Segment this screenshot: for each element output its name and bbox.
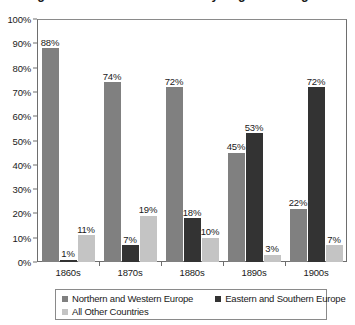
y-axis-tick-label: 10% <box>13 232 31 243</box>
bar-value-label: 7% <box>123 235 136 245</box>
bar-1860s-series-3: 11% <box>78 235 95 262</box>
bar-value-label: 7% <box>327 235 340 245</box>
legend-row-1: Northern and Western Europe Eastern and … <box>62 293 326 305</box>
legend-swatch-icon-3 <box>62 309 68 315</box>
bar-value-label: 45% <box>227 142 245 152</box>
y-axis-tick-label: 30% <box>13 184 31 195</box>
bar-value-label: 53% <box>245 123 263 133</box>
legend-swatch-icon-1 <box>62 296 68 302</box>
bar-1870s-series-1: 74% <box>104 82 121 262</box>
x-axis-tick-label: 1880s <box>180 267 205 278</box>
x-axis: 1860s1870s1880s1890s1900s <box>37 262 347 284</box>
bar-value-label: 11% <box>77 225 95 235</box>
bar-group-1860s: 88%1%11% <box>42 19 95 262</box>
bar-group-1900s: 22%72%7% <box>290 19 343 262</box>
bar-value-label: 19% <box>139 205 157 215</box>
x-axis-tick-label: 1860s <box>56 267 81 278</box>
bar-1890s-series-2: 53% <box>246 133 263 262</box>
y-axis: 100%90%80%70%60%50%40%30%20%10%0% <box>0 19 37 262</box>
page-title: Immigration to the United States by Regi… <box>8 0 320 2</box>
y-axis-tick-label: 0% <box>18 257 31 268</box>
x-axis-tick-mark <box>99 262 100 266</box>
bar-plot-area: 88%1%11%74%7%19%72%18%10%45%53%3%22%72%7… <box>37 19 347 262</box>
legend-swatch-icon-2 <box>215 296 221 302</box>
bar-1880s-series-3: 10% <box>202 238 219 262</box>
chart-legend: Northern and Western Europe Eastern and … <box>55 289 327 320</box>
y-axis-tick-label: 90% <box>13 38 31 49</box>
bar-1900s-series-3: 7% <box>326 245 343 262</box>
bar-1890s-series-3: 3% <box>264 255 281 262</box>
bar-1860s-series-1: 88% <box>42 48 59 262</box>
bar-value-label: 22% <box>289 198 307 208</box>
legend-item-eastern-and-southern-europe: Eastern and Southern Europe <box>215 294 345 304</box>
x-axis-tick-mark <box>223 262 224 266</box>
bar-1900s-series-2: 72% <box>308 87 325 262</box>
bar-value-label: 18% <box>183 208 201 218</box>
chart-title-strip: Immigration to the United States by Regi… <box>0 0 355 13</box>
bar-value-label: 1% <box>61 249 74 259</box>
y-axis-tick-label: 40% <box>13 159 31 170</box>
bar-value-label: 88% <box>41 38 59 48</box>
x-axis-tick-label: 1890s <box>242 267 267 278</box>
legend-item-northern-and-western-europe: Northern and Western Europe <box>62 294 193 304</box>
legend-label-3: All Other Countries <box>72 307 148 317</box>
bar-value-label: 3% <box>265 244 278 254</box>
bar-group-1880s: 72%18%10% <box>166 19 219 262</box>
bar-group-1870s: 74%7%19% <box>104 19 157 262</box>
legend-row-2: All Other Countries <box>62 306 326 318</box>
bar-group-1890s: 45%53%3% <box>228 19 281 262</box>
y-axis-tick-label: 50% <box>13 135 31 146</box>
bar-value-label: 72% <box>307 77 325 87</box>
bar-1900s-series-1: 22% <box>290 209 307 262</box>
y-axis-tick-label: 60% <box>13 111 31 122</box>
bar-1880s-series-2: 18% <box>184 218 201 262</box>
y-axis-tick-label: 70% <box>13 86 31 97</box>
legend-label-1: Northern and Western Europe <box>72 294 193 304</box>
x-axis-tick-label: 1900s <box>304 267 329 278</box>
legend-label-2: Eastern and Southern Europe <box>225 294 345 304</box>
x-axis-tick-label: 1870s <box>118 267 143 278</box>
x-axis-tick-mark <box>161 262 162 266</box>
bar-value-label: 72% <box>165 77 183 87</box>
y-axis-tick-label: 80% <box>13 62 31 73</box>
y-axis-tick-label: 100% <box>8 14 32 25</box>
bar-1870s-series-3: 19% <box>140 216 157 262</box>
bar-1870s-series-2: 7% <box>122 245 139 262</box>
bar-value-label: 10% <box>201 227 219 237</box>
bar-1890s-series-1: 45% <box>228 153 245 262</box>
x-axis-tick-mark <box>285 262 286 266</box>
legend-item-all-other-countries: All Other Countries <box>62 307 148 317</box>
bar-value-label: 74% <box>103 72 121 82</box>
y-axis-tick-label: 20% <box>13 208 31 219</box>
bar-1880s-series-1: 72% <box>166 87 183 262</box>
